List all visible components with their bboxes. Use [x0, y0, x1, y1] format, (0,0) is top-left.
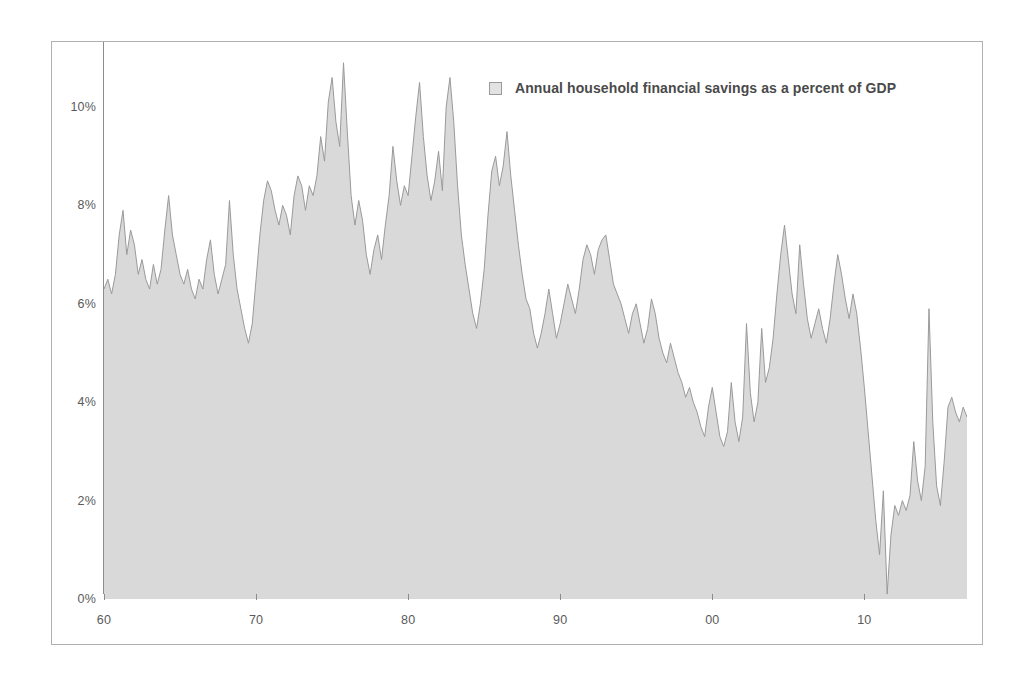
y-tick-label: 6% [78, 297, 96, 311]
x-tick-mark [104, 594, 105, 600]
y-tick-label: 0% [78, 592, 96, 606]
plot-area [104, 48, 967, 599]
x-tick-label: 10 [857, 613, 871, 627]
x-tick-mark [712, 594, 713, 600]
x-tick-label: 90 [553, 613, 567, 627]
x-tick-label: 60 [97, 613, 111, 627]
x-tick-mark [408, 594, 409, 600]
chart-frame: 0%2%4%6%8%10% 607080900010 Annual househ… [51, 41, 983, 645]
chart-page: 0%2%4%6%8%10% 607080900010 Annual househ… [0, 0, 1036, 681]
legend-label: Annual household financial savings as a … [515, 80, 896, 96]
chart-legend: Annual household financial savings as a … [489, 80, 896, 96]
y-tick-label: 4% [78, 395, 96, 409]
x-tick-mark [256, 594, 257, 600]
x-tick-mark [560, 594, 561, 600]
y-tick-label: 10% [70, 100, 96, 114]
legend-swatch-icon [489, 82, 502, 95]
x-tick-label: 00 [705, 613, 719, 627]
area-chart-svg [104, 48, 967, 599]
y-tick-label: 2% [78, 494, 96, 508]
y-axis-labels: 0%2%4%6%8%10% [52, 42, 96, 599]
y-tick-label: 8% [78, 198, 96, 212]
x-tick-mark [864, 594, 865, 600]
x-tick-label: 70 [249, 613, 263, 627]
area-series-fill [104, 63, 967, 599]
x-tick-label: 80 [401, 613, 415, 627]
